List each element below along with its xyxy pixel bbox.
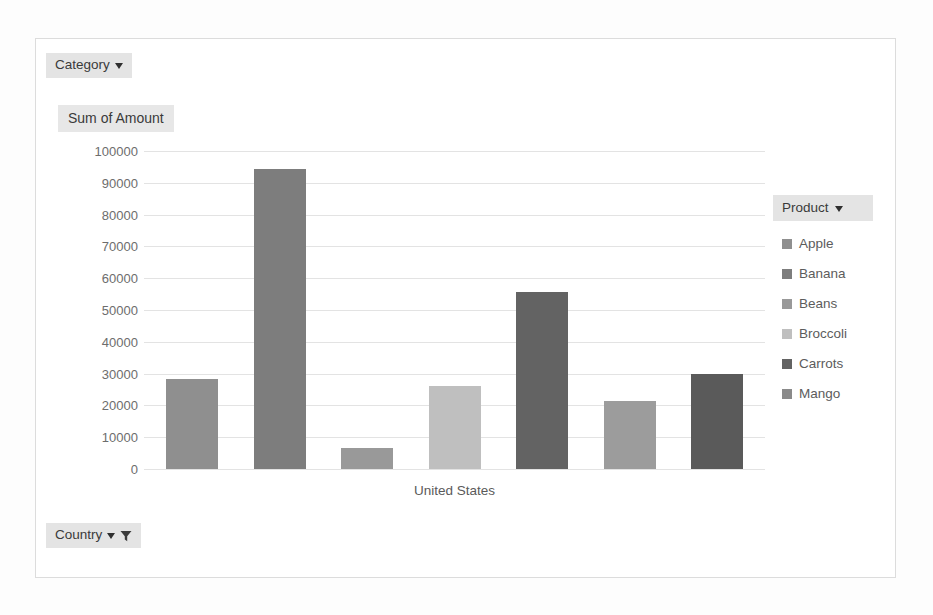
bar[interactable]	[254, 169, 306, 469]
legend-item[interactable]: Banana	[773, 266, 885, 281]
legend-swatch	[782, 389, 792, 399]
bar-series	[144, 151, 765, 469]
y-axis-tick-label: 60000	[102, 271, 138, 286]
legend-item-label: Mango	[799, 386, 840, 401]
legend-swatch	[782, 239, 792, 249]
bar[interactable]	[604, 401, 656, 469]
legend-item-label: Apple	[799, 236, 834, 251]
legend-swatch	[782, 269, 792, 279]
bar[interactable]	[691, 374, 743, 469]
y-axis-tick-label: 50000	[102, 303, 138, 318]
funnel-filter-icon[interactable]	[120, 530, 132, 542]
bar[interactable]	[429, 386, 481, 469]
category-field-label: Category	[55, 58, 110, 72]
country-field-button[interactable]: Country	[46, 523, 141, 548]
chevron-down-icon[interactable]	[835, 206, 843, 212]
legend: Product AppleBananaBeansBroccoliCarrotsM…	[773, 195, 885, 401]
legend-swatch	[782, 359, 792, 369]
product-field-button[interactable]: Product	[773, 195, 873, 221]
gridline	[144, 469, 765, 470]
y-axis-tick-label: 90000	[102, 175, 138, 190]
legend-swatch	[782, 299, 792, 309]
legend-swatch	[782, 329, 792, 339]
pivotchart-frame: Category Sum of Amount 10000090000800007…	[35, 38, 896, 578]
category-field-button[interactable]: Category	[46, 53, 132, 78]
y-axis-tick-label: 80000	[102, 207, 138, 222]
y-axis-tick-label: 70000	[102, 239, 138, 254]
country-field-label: Country	[55, 528, 102, 542]
x-axis-label: United States	[144, 483, 765, 498]
chart-title: Sum of Amount	[58, 105, 174, 132]
y-axis-tick-label: 30000	[102, 366, 138, 381]
legend-item[interactable]: Beans	[773, 296, 885, 311]
bar[interactable]	[341, 448, 393, 469]
legend-item[interactable]: Apple	[773, 236, 885, 251]
chevron-down-icon[interactable]	[107, 533, 115, 539]
bar[interactable]	[516, 292, 568, 469]
legend-item-label: Broccoli	[799, 326, 847, 341]
y-axis-tick-label: 100000	[95, 144, 138, 159]
legend-items: AppleBananaBeansBroccoliCarrotsMango	[773, 236, 885, 401]
legend-item-label: Banana	[799, 266, 846, 281]
legend-item[interactable]: Broccoli	[773, 326, 885, 341]
legend-item-label: Carrots	[799, 356, 843, 371]
plot-area	[144, 151, 765, 469]
y-axis-tick-label: 0	[131, 462, 138, 477]
y-axis-tick-labels: 1000009000080000700006000050000400003000…	[74, 151, 138, 469]
legend-header-label: Product	[782, 200, 829, 215]
y-axis-tick-label: 40000	[102, 334, 138, 349]
y-axis-tick-label: 20000	[102, 398, 138, 413]
bar[interactable]	[166, 379, 218, 469]
legend-item[interactable]: Mango	[773, 386, 885, 401]
chevron-down-icon[interactable]	[115, 63, 123, 69]
y-axis-tick-label: 10000	[102, 430, 138, 445]
legend-item[interactable]: Carrots	[773, 356, 885, 371]
legend-item-label: Beans	[799, 296, 837, 311]
